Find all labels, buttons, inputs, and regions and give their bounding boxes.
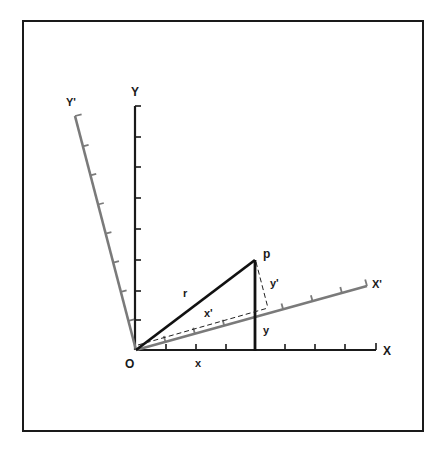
origin-label: O [125, 357, 134, 371]
figure-frame [23, 21, 423, 431]
x-component-label: x [195, 357, 202, 369]
x-prime-axis-label: X' [372, 278, 382, 290]
point-p-label: p [263, 247, 270, 261]
y-axis [135, 106, 141, 350]
y-prime-axis [75, 114, 136, 350]
x-axis-label: X [383, 344, 391, 358]
y-prime-axis-label: Y' [66, 96, 76, 108]
y-prime-component-label: y' [270, 277, 279, 289]
y-prime-projection-dashed [256, 262, 268, 308]
x-prime-component-label: x' [204, 307, 213, 319]
rotated-axes-diagram: O X Y X' Y' p r x y x' y' [0, 0, 442, 451]
y-axis-label: Y [131, 85, 139, 99]
x-prime-axis [136, 280, 367, 350]
radius-line-r [136, 260, 255, 350]
x-prime-projection-dashed [138, 308, 268, 345]
y-component-label: y [263, 324, 270, 336]
radius-label: r [183, 287, 188, 299]
